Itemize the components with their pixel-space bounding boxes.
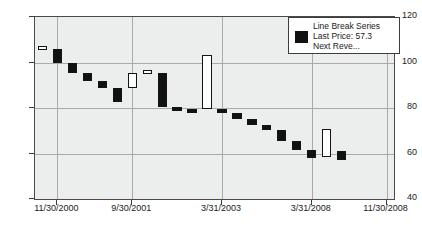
legend-series-name: Line Break Series [313,21,380,31]
bar-12-down [217,109,226,113]
bar-1-down [53,49,62,63]
bar-20-down [337,151,346,159]
x-tick-mark-4 [386,200,387,205]
y-tick-label-100: 100 [389,57,417,66]
legend-last-price: Last Price: 57.3 [313,31,372,41]
bar-5-down [113,88,122,102]
gridline-x-0 [57,17,58,199]
bar-3-down [83,73,92,82]
bar-15-down [262,125,271,130]
gridline-y-80 [35,108,394,109]
bar-18-down [307,150,316,157]
bar-11-up [202,55,211,110]
y-tick-label-40: 40 [389,193,417,202]
bar-17-down [292,141,301,150]
bar-9-down [172,107,181,111]
x-tick-label-4: 11/30/2008 [346,203,422,213]
gridline-x-2 [222,17,223,199]
y-tick-label-60: 60 [389,148,417,157]
legend-next-revision: Next Reve... [313,41,360,51]
y-tick-label-80: 80 [389,102,417,111]
bar-10-down [187,109,196,113]
bar-13-down [232,113,241,119]
y-tick-mark-80 [29,107,34,108]
x-tick-mark-3 [311,200,312,205]
bar-4-down [98,81,107,88]
bar-8-down [158,73,167,107]
x-tick-mark-1 [131,200,132,205]
bar-2-down [68,63,77,73]
legend-swatch-icon [295,31,308,43]
x-tick-mark-2 [221,200,222,205]
bar-16-down [277,130,286,141]
y-tick-mark-40 [29,198,34,199]
y-tick-mark-100 [29,62,34,63]
y-tick-mark-60 [29,153,34,154]
legend: Line Break Series Last Price: 57.3 Next … [288,17,400,54]
x-tick-mark-0 [56,200,57,205]
bar-6-up [128,73,137,88]
gridline-y-100 [35,63,394,64]
gridline-x-1 [132,17,133,199]
bar-14-down [247,119,256,125]
bar-7-up [143,70,152,74]
y-tick-mark-120 [29,16,34,17]
bar-19-up [322,129,331,157]
bar-0-up [38,46,47,50]
